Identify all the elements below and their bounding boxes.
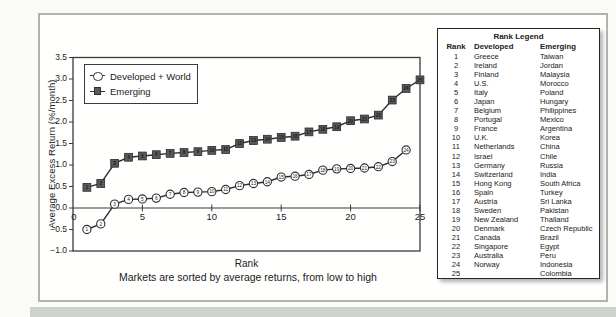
svg-text:11: 11 (223, 147, 228, 152)
developed-cell: Japan (474, 97, 540, 106)
rank-cell: 5 (438, 88, 474, 97)
rank-cell: 10 (438, 133, 474, 142)
rank-legend-row: 12IsraelChile (438, 152, 599, 161)
svg-text:3.5: 3.5 (55, 52, 67, 62)
developed-cell: Portugal (474, 115, 540, 124)
svg-text:8: 8 (183, 150, 186, 155)
rank-legend-row: 18SwedenPakistan (438, 206, 599, 215)
rank-cell: 9 (438, 124, 474, 133)
emerging-cell: Thailand (540, 215, 599, 224)
rank-legend-row: 10U.K.Korea (438, 133, 599, 142)
svg-text:12: 12 (237, 183, 243, 188)
rank-cell: 4 (438, 79, 474, 88)
developed-cell: Singapore (474, 242, 540, 251)
developed-cell: Sweden (474, 206, 540, 215)
rank-legend-row: 20DenmarkCzech Republic (438, 224, 599, 233)
svg-text:5: 5 (141, 154, 144, 159)
svg-text:22: 22 (376, 113, 382, 118)
rank-legend-row: 15Hong KongSouth Africa (438, 179, 599, 188)
svg-text:21: 21 (362, 166, 368, 171)
developed-cell: Norway (474, 260, 540, 269)
developed-cell: U.K. (474, 133, 540, 142)
svg-text:7: 7 (169, 151, 172, 156)
rank-cell: 3 (438, 70, 474, 79)
svg-text:2.0: 2.0 (55, 116, 67, 126)
legend-entry-emerging: Emerging (85, 86, 197, 97)
svg-text:1: 1 (86, 185, 89, 190)
svg-text:14: 14 (265, 137, 271, 142)
svg-text:6: 6 (155, 196, 158, 201)
emerging-cell: Peru (540, 251, 599, 260)
rank-cell: 6 (438, 97, 474, 106)
svg-text:10: 10 (209, 148, 215, 153)
rank-legend-title: Rank Legend (438, 31, 599, 42)
emerging-cell: Indonesia (540, 260, 599, 269)
developed-cell: Finland (474, 70, 540, 79)
emerging-cell: Korea (540, 133, 599, 142)
rank-cell: 19 (438, 215, 474, 224)
svg-text:20: 20 (348, 119, 354, 124)
chart-caption: Markets are sorted by average returns, f… (43, 271, 453, 283)
svg-text:19: 19 (334, 167, 340, 172)
emerging-cell: China (540, 142, 599, 151)
svg-text:1: 1 (86, 227, 89, 232)
emerging-cell: Brazil (540, 233, 599, 242)
emerging-cell: India (540, 170, 599, 179)
svg-text:3: 3 (113, 202, 116, 207)
emerging-cell: Taiwan (540, 52, 599, 61)
emerging-cell: Poland (540, 88, 599, 97)
emerging-cell: Jordan (540, 61, 599, 70)
svg-text:5: 5 (141, 197, 144, 202)
svg-text:0.0: 0.0 (55, 202, 67, 212)
svg-text:11: 11 (223, 187, 228, 192)
svg-text:17: 17 (306, 172, 312, 177)
svg-text:18: 18 (320, 127, 326, 132)
emerging-cell: Turkey (540, 188, 599, 197)
emerging-cell: Argentina (540, 124, 599, 133)
y-axis-label: Average Excess Return (%/month) (46, 79, 57, 228)
emerging-cell: Czech Republic (540, 224, 599, 233)
svg-text:3.0: 3.0 (55, 73, 67, 83)
developed-cell: New Zealand (474, 215, 540, 224)
svg-text:16: 16 (292, 174, 298, 179)
emerging-cell: Philippines (540, 106, 599, 115)
svg-text:21: 21 (362, 117, 368, 122)
developed-cell: Netherlands (474, 142, 540, 151)
developed-cell: Ireland (474, 61, 540, 70)
column-header-developed: Developed (474, 42, 540, 52)
svg-text:13: 13 (251, 181, 257, 186)
rank-legend-row: 8PortugalMexico (438, 115, 599, 124)
chart-legend-box: Developed + World Emerging (84, 64, 198, 104)
svg-text:12: 12 (237, 141, 243, 146)
developed-cell: Greece (474, 52, 540, 61)
developed-cell: Belgium (474, 106, 540, 115)
rank-cell: 21 (438, 233, 474, 242)
emerging-cell: Egypt (540, 242, 599, 251)
svg-text:25: 25 (417, 78, 423, 83)
rank-legend-row: 22SingaporeEgypt (438, 242, 599, 251)
column-header-rank: Rank (438, 42, 474, 52)
svg-text:0.5: 0.5 (55, 181, 67, 191)
rank-cell: 16 (438, 188, 474, 197)
svg-text:13: 13 (251, 138, 257, 143)
svg-text:22: 22 (376, 165, 382, 170)
svg-text:6: 6 (155, 152, 158, 157)
svg-text:15: 15 (279, 135, 285, 140)
rank-cell: 2 (438, 61, 474, 70)
svg-text:18: 18 (320, 168, 326, 173)
svg-text:7: 7 (169, 192, 172, 197)
legend-label-emerging: Emerging (110, 86, 151, 97)
rank-cell: 23 (438, 251, 474, 260)
emerging-cell: Hungary (540, 97, 599, 106)
rank-cell: 25 (438, 269, 474, 278)
svg-text:2.5: 2.5 (55, 95, 67, 105)
svg-text:5: 5 (140, 211, 145, 222)
svg-text:8: 8 (183, 190, 186, 195)
rank-legend-row: 3FinlandMalaysia (438, 70, 599, 79)
rank-legend-row: 13GermanyRussia (438, 161, 599, 170)
svg-text:9: 9 (197, 190, 200, 195)
svg-text:−1.0: −1.0 (50, 245, 67, 255)
svg-text:2: 2 (99, 222, 102, 227)
emerging-cell: Mexico (540, 115, 599, 124)
svg-text:17: 17 (306, 130, 312, 135)
